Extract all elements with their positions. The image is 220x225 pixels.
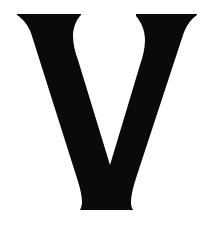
serif-v-glyph-icon [0, 0, 220, 225]
letter-v-canvas: V [0, 0, 220, 225]
